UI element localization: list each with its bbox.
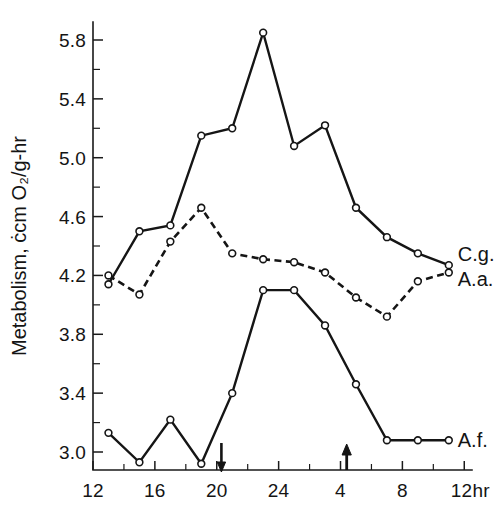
arrow-head: [342, 444, 351, 455]
data-point: [353, 204, 360, 211]
data-point: [167, 416, 174, 423]
x-tick-label: 16: [144, 480, 166, 501]
data-point: [322, 122, 329, 129]
series-label-aa: A.a.: [458, 268, 494, 290]
axis-lines: [93, 22, 472, 470]
y-tick-label: 3.0: [59, 442, 86, 463]
data-point: [105, 429, 112, 436]
x-tick-label: 4: [335, 480, 346, 501]
series-label-cg: C.g.: [458, 243, 495, 265]
y-axis-tick-labels: 5.85.45.04.64.23.83.43.0: [59, 30, 86, 463]
data-point: [198, 204, 205, 211]
data-point: [353, 381, 360, 388]
data-point: [414, 278, 421, 285]
data-point: [414, 250, 421, 257]
y-tick-label: 4.6: [59, 207, 86, 228]
y-axis-minor-ticks: [93, 69, 100, 422]
series-label-af: A.f.: [458, 429, 488, 451]
data-point: [198, 132, 205, 139]
x-axis-ticks: [93, 461, 464, 470]
data-point: [445, 262, 452, 269]
metabolism-chart-figure: 5.85.45.04.64.23.83.43.0 121620244812hr …: [0, 0, 495, 532]
x-tick-label: 8: [397, 480, 408, 501]
data-point: [353, 294, 360, 301]
data-point: [229, 250, 236, 257]
data-point: [136, 459, 143, 466]
series-line-af: [108, 290, 448, 464]
data-point: [445, 269, 452, 276]
data-point: [167, 222, 174, 229]
y-tick-label: 4.2: [59, 265, 86, 286]
x-tick-label: 12: [82, 480, 104, 501]
data-point: [414, 437, 421, 444]
y-tick-label: 5.4: [59, 89, 86, 110]
data-point: [198, 460, 205, 467]
data-point: [105, 272, 112, 279]
data-point: [322, 269, 329, 276]
data-point: [167, 238, 174, 245]
data-point: [322, 322, 329, 329]
event-arrows: [217, 443, 351, 472]
data-series-lines: [108, 33, 448, 464]
data-point: [229, 390, 236, 397]
sunset-arrow: [217, 443, 225, 472]
x-tick-label: 24: [268, 480, 290, 501]
data-point: [291, 259, 298, 266]
y-tick-label: 5.8: [59, 30, 86, 51]
data-point: [384, 437, 391, 444]
data-point: [445, 437, 452, 444]
data-point: [291, 287, 298, 294]
x-tick-label: 12hr: [451, 480, 490, 501]
y-tick-label: 3.8: [59, 324, 86, 345]
y-tick-label: 3.4: [59, 383, 86, 404]
data-point: [136, 228, 143, 235]
x-axis-tick-labels: 121620244812hr: [82, 480, 490, 501]
data-point: [136, 291, 143, 298]
series-line-cg: [108, 33, 448, 285]
data-point: [384, 234, 391, 241]
y-tick-label: 5.0: [59, 148, 86, 169]
series-inline-labels: C.g.A.a.A.f.: [458, 243, 495, 451]
chart-canvas: 5.85.45.04.64.23.83.43.0 121620244812hr …: [0, 0, 495, 532]
data-series-markers: [105, 29, 452, 467]
data-point: [260, 29, 267, 36]
sunrise-arrow: [342, 444, 351, 470]
chart-axes: [93, 22, 472, 470]
data-point: [105, 281, 112, 288]
x-tick-label: 20: [206, 480, 228, 501]
data-point: [291, 143, 298, 150]
data-point: [384, 313, 391, 320]
data-point: [260, 256, 267, 263]
data-point: [229, 125, 236, 132]
series-line-aa: [108, 208, 448, 317]
data-point: [260, 287, 267, 294]
y-axis-title: Metabolism, ċcm O₂/g-hr: [8, 136, 30, 356]
